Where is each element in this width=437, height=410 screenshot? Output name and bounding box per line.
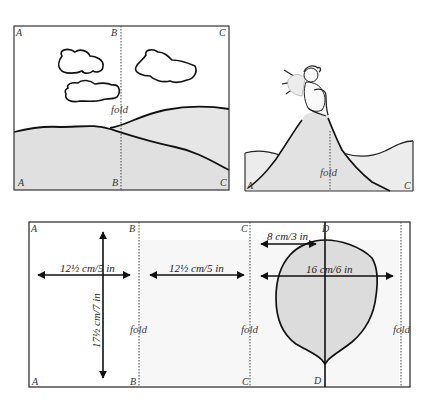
fold-label: fold — [241, 323, 259, 335]
corner-label-b: B — [129, 223, 135, 234]
corner-label-a: A — [30, 223, 38, 234]
corner-label-b: B — [112, 177, 118, 188]
cloud-icon — [65, 80, 119, 101]
dimension-label-half-leaf: 8 cm/3 in — [267, 230, 308, 242]
panel-top-left: A B C A B C fold — [14, 26, 229, 190]
fold-label: fold — [111, 103, 129, 115]
fold-label: fold — [130, 323, 148, 335]
fold-label: fold — [393, 323, 411, 335]
cherub-figure — [282, 66, 328, 116]
corner-label-b: B — [130, 376, 136, 387]
panel-bottom-template: A B C D A B C D fold fold fold 12½ cm/5 … — [29, 222, 411, 387]
dimension-label-width-ab: 12½ cm/5 in — [60, 262, 115, 274]
corner-label-c: C — [242, 376, 249, 387]
corner-label-c: C — [404, 180, 411, 191]
corner-label-a: A — [15, 27, 23, 38]
corner-label-d: D — [313, 375, 322, 386]
corner-label-a: A — [246, 180, 254, 191]
dimension-label-width-bc: 12½ cm/5 in — [169, 262, 224, 274]
panel-top-right: fold A C — [245, 66, 413, 191]
cloud-icon — [135, 50, 196, 83]
diagram-canvas: A B C A B C fold — [0, 0, 437, 410]
dimension-label-leaf-width: 16 cm/6 in — [306, 263, 353, 275]
corner-label-b: B — [111, 27, 117, 38]
corner-label-c: C — [220, 177, 227, 188]
fold-label: fold — [320, 166, 338, 178]
corner-label-a: A — [17, 177, 25, 188]
cloud-icon — [59, 49, 103, 73]
dimension-label-height: 17½ cm/7 in — [90, 293, 102, 348]
corner-label-d: D — [321, 223, 330, 234]
corner-label-a: A — [31, 376, 39, 387]
corner-label-c: C — [219, 27, 226, 38]
corner-label-c: C — [241, 223, 248, 234]
